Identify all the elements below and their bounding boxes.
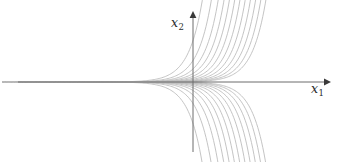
trajectory-curve [3, 0, 250, 82]
trajectory-curve [3, 82, 266, 162]
trajectory-curve [3, 82, 229, 162]
x1-axis-arrowhead [324, 79, 331, 86]
trajectory-curve [3, 82, 208, 162]
phase-portrait-figure: x2 x1 [0, 0, 349, 162]
trajectory-curve [3, 82, 223, 162]
trajectory-curve [3, 0, 223, 82]
x2-axis-arrowhead [190, 11, 197, 18]
trajectory-curve [3, 0, 216, 82]
trajectory-curve [3, 82, 256, 162]
axis-label-x2-symbol: x [171, 15, 178, 30]
trajectory-curve [3, 82, 216, 162]
trajectory-curve [3, 0, 229, 82]
trajectory-curve [3, 0, 208, 82]
axes-group [18, 11, 331, 152]
axis-label-x1-symbol: x [311, 81, 318, 96]
trajectory-curve [3, 82, 234, 162]
axis-label-x2-subscript: 2 [179, 22, 184, 32]
axis-label-x2: x2 [171, 17, 183, 30]
trajectory-curve [3, 0, 240, 82]
trajectory-curve [3, 0, 256, 82]
axis-label-x1-subscript: 1 [319, 88, 324, 98]
trajectory-curve [3, 0, 234, 82]
trajectory-curves [3, 0, 271, 162]
axis-label-x1: x1 [311, 83, 323, 96]
trajectory-curve [3, 0, 266, 82]
